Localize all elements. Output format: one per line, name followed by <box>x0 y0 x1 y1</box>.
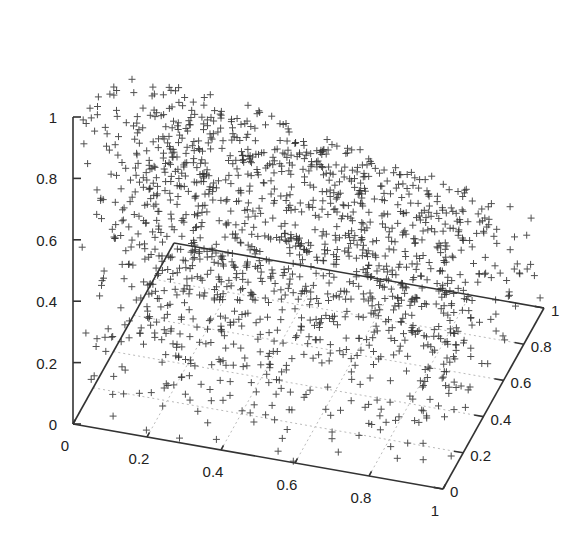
x-tick <box>369 471 372 476</box>
y-tick <box>535 306 544 308</box>
scatter3d-plot: 00.20.40.60.8100.20.40.60.8100.20.40.60.… <box>0 0 584 544</box>
y-tick-label: 0.2 <box>470 447 491 464</box>
x-tick <box>443 484 446 489</box>
z-tick-label: 0.2 <box>36 355 57 372</box>
back-edge <box>174 243 544 308</box>
x-tick <box>295 458 298 463</box>
z-tick-label: 0.4 <box>36 293 57 310</box>
data-points <box>79 76 544 465</box>
y-tick-label: 1 <box>551 302 559 319</box>
y-tick <box>434 487 443 489</box>
x-tick <box>221 445 224 450</box>
x-tick <box>147 432 150 437</box>
y-tick <box>515 343 524 345</box>
y-tick-label: 0.4 <box>490 411 511 428</box>
y-tick <box>494 379 503 381</box>
x-tick-label: 1 <box>431 502 439 519</box>
x-tick-label: 0.8 <box>351 489 372 506</box>
x-tick-label: 0.6 <box>277 476 298 493</box>
z-tick-label: 1 <box>49 109 57 126</box>
y-tick <box>454 451 463 453</box>
y-tick-label: 0.6 <box>511 374 532 391</box>
z-tick-label: 0.8 <box>36 170 57 187</box>
grid-line-y <box>134 315 504 380</box>
x-tick-label: 0.4 <box>203 463 224 480</box>
floor-grid <box>93 256 524 476</box>
y-tick-label: 0.8 <box>531 338 552 355</box>
y-tick-label: 0 <box>450 483 458 500</box>
x-tick-label: 0 <box>61 437 69 454</box>
grid-line-x <box>295 282 396 463</box>
z-tick-label: 0 <box>49 416 57 433</box>
z-tick-label: 0.6 <box>36 232 57 249</box>
x-tick-label: 0.2 <box>129 450 150 467</box>
grid-line-x <box>221 269 322 450</box>
y-axis <box>443 308 544 489</box>
y-tick <box>474 415 483 417</box>
